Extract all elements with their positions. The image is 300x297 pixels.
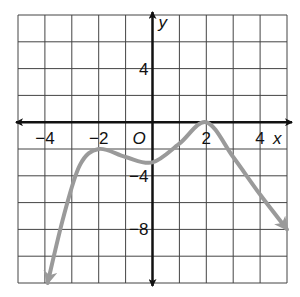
x-axis-label: x <box>272 129 282 148</box>
y-tick-label: 4 <box>139 60 148 79</box>
y-axis-label: y <box>158 13 169 32</box>
x-tick-label: 4 <box>255 129 264 148</box>
x-tick-label: −2 <box>89 129 108 148</box>
y-tick-label: −8 <box>129 220 148 239</box>
x-tick-label: −4 <box>35 129 54 148</box>
graph: y x O −4−2244−4−8 <box>0 0 300 297</box>
y-tick-label: −4 <box>129 167 148 186</box>
x-tick-label: 2 <box>202 129 211 148</box>
origin-label: O <box>133 129 146 148</box>
